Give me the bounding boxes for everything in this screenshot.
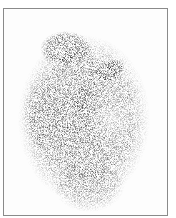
scintigraphy-image: [4, 9, 167, 215]
left-side-region: [22, 74, 70, 154]
right-lighter-region: [82, 89, 142, 149]
lower-tail-region: [53, 156, 125, 212]
scan-frame: [3, 8, 168, 216]
upper-left-blob: [40, 31, 92, 67]
